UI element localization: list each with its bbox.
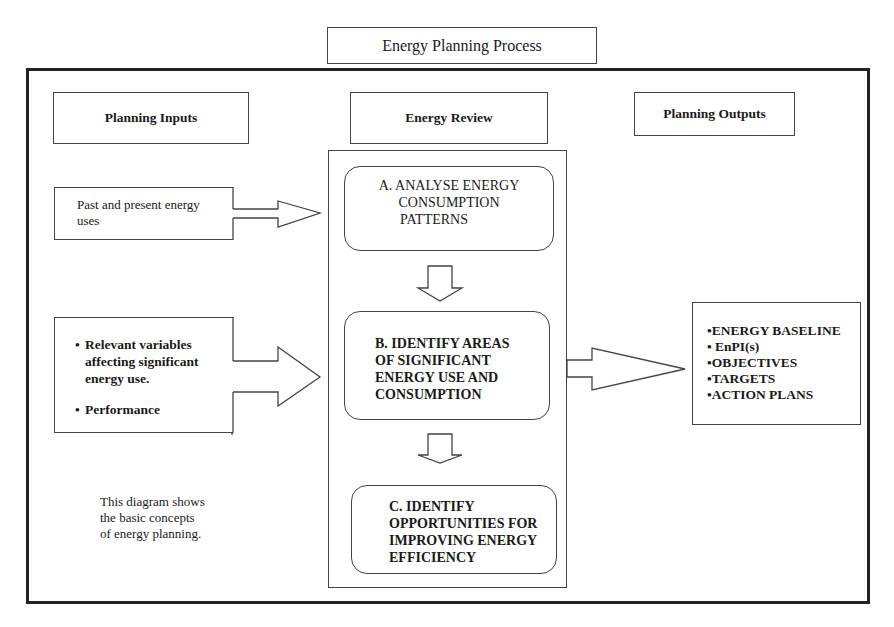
step-line: B. IDENTIFY AREAS xyxy=(375,335,549,352)
step-line: IMPROVING ENERGY xyxy=(389,532,556,549)
step-line: CONSUMPTION xyxy=(375,386,549,403)
input-line: uses xyxy=(77,213,233,229)
energy-review-label: Energy Review xyxy=(405,110,492,126)
step-line: OF SIGNIFICANT xyxy=(375,352,549,369)
caption-line: of energy planning. xyxy=(100,526,250,542)
output-item: •ACTION PLANS xyxy=(707,387,860,403)
bullet-text: Performance xyxy=(85,401,160,418)
planning-inputs-label: Planning Inputs xyxy=(105,110,198,126)
step-line: PATTERNS xyxy=(345,211,523,228)
step-line: A. ANALYSE ENERGY xyxy=(345,177,553,194)
caption-line: This diagram shows xyxy=(100,494,250,510)
input-line: Past and present energy xyxy=(77,197,233,213)
caption-line: the basic concepts xyxy=(100,510,250,526)
step-line: ENERGY USE AND xyxy=(375,369,549,386)
input-box-past-present-uses: Past and present energy uses xyxy=(54,187,233,240)
output-item: •ENERGY BASELINE xyxy=(707,323,860,339)
planning-outputs-label: Planning Outputs xyxy=(663,106,765,122)
diagram-title: Energy Planning Process xyxy=(382,37,542,55)
output-item: •TARGETS xyxy=(707,371,860,387)
bullet-performance: • Performance xyxy=(75,401,233,418)
review-step-c: C. IDENTIFY OPPORTUNITIES FOR IMPROVING … xyxy=(351,485,557,574)
output-item: •OBJECTIVES xyxy=(707,355,860,371)
outputs-list: •ENERGY BASELINE • EnPI(s) •OBJECTIVES •… xyxy=(707,323,860,403)
diagram-caption: This diagram shows the basic concepts of… xyxy=(100,494,250,542)
planning-outputs-header: Planning Outputs xyxy=(634,92,795,136)
step-line: EFFICIENCY xyxy=(389,549,556,566)
diagram-title-box: Energy Planning Process xyxy=(327,27,597,64)
bullet-text: Relevant variables affecting significant… xyxy=(85,336,215,387)
step-line: OPPORTUNITIES FOR xyxy=(389,515,556,532)
planning-outputs-box: •ENERGY BASELINE • EnPI(s) •OBJECTIVES •… xyxy=(692,302,861,425)
review-step-b: B. IDENTIFY AREAS OF SIGNIFICANT ENERGY … xyxy=(344,311,550,420)
output-item: • EnPI(s) xyxy=(707,339,860,355)
step-line: C. IDENTIFY xyxy=(389,498,556,515)
bullet-relevant-variables: • Relevant variables affecting significa… xyxy=(75,336,233,387)
step-line: CONSUMPTION xyxy=(345,194,553,211)
planning-inputs-header: Planning Inputs xyxy=(53,92,249,144)
input-box-variables-performance: • Relevant variables affecting significa… xyxy=(54,317,233,433)
energy-review-header: Energy Review xyxy=(350,92,548,144)
review-step-a: A. ANALYSE ENERGY CONSUMPTION PATTERNS xyxy=(344,166,554,251)
